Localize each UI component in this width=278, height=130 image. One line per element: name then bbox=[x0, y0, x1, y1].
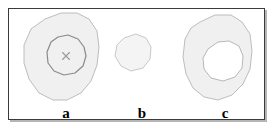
figure-frame: a b c bbox=[8, 8, 265, 120]
panel-b-shapes bbox=[115, 34, 151, 71]
panel-label-a: a bbox=[51, 106, 81, 121]
figure-root: a b c bbox=[0, 0, 278, 130]
panel-label-b: b bbox=[127, 106, 157, 121]
panel-label-c: c bbox=[210, 106, 240, 121]
panel-a-shapes bbox=[24, 13, 99, 100]
panel-c-shapes bbox=[183, 15, 252, 100]
panel-b-outer-region bbox=[115, 34, 151, 71]
